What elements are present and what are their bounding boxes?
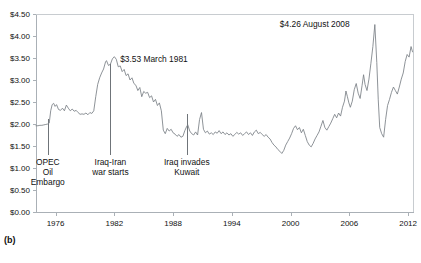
event-marker-label-opec-oil-embargo: Oil (43, 167, 53, 177)
y-tick-label: $2.00 (10, 120, 31, 129)
annotation-peak-1981: $3.53 March 1981 (120, 54, 188, 64)
x-tick-label: 1994 (223, 219, 241, 228)
y-tick-label: $3.50 (10, 54, 31, 63)
figure-panel-b: $4.50$4.00$3.50$3.00$2.50$2.00$1.50$1.00… (0, 0, 421, 263)
y-tick-label: $2.50 (10, 98, 31, 107)
y-tick-label: $0.00 (10, 208, 31, 217)
event-marker-label-iraq-iran-war: war starts (91, 167, 128, 177)
event-marker-label-iraq-invades-kuwait: Iraq invades (164, 157, 210, 167)
x-tick-label: 2012 (399, 219, 417, 228)
event-markers: OPECOilEmbargoIraq-Iranwar startsIraq in… (31, 64, 210, 187)
series-line-0 (36, 25, 413, 154)
y-tick-label: $4.00 (10, 32, 31, 41)
y-tick-label: $1.50 (10, 142, 31, 151)
peak-annotations: $3.53 March 1981$4.26 August 2008 (120, 19, 350, 64)
y-tick-label: $3.00 (10, 76, 31, 85)
event-marker-label-iraq-invades-kuwait: Kuwait (174, 167, 200, 177)
event-marker-label-opec-oil-embargo: Embargo (31, 177, 65, 187)
x-tick-label: 1976 (47, 219, 65, 228)
data-series (36, 25, 413, 154)
y-tick-label: $0.50 (10, 186, 31, 195)
y-tick-label: $1.00 (10, 164, 31, 173)
y-tick-label: $4.50 (10, 10, 31, 19)
gasoline-price-line-chart: $4.50$4.00$3.50$3.00$2.50$2.00$1.50$1.00… (0, 0, 421, 263)
event-marker-label-iraq-iran-war: Iraq-Iran (95, 157, 127, 167)
x-tick-label: 1988 (164, 219, 182, 228)
annotation-peak-2008: $4.26 August 2008 (280, 19, 350, 29)
event-marker-label-opec-oil-embargo: OPEC (36, 157, 60, 167)
x-axis-ticks: 1976198219881994200020062012 (47, 212, 418, 228)
x-tick-label: 2000 (282, 219, 300, 228)
plot-frame (36, 14, 414, 213)
x-tick-label: 2006 (340, 219, 358, 228)
panel-label: (b) (4, 235, 16, 245)
x-tick-label: 1982 (105, 219, 123, 228)
